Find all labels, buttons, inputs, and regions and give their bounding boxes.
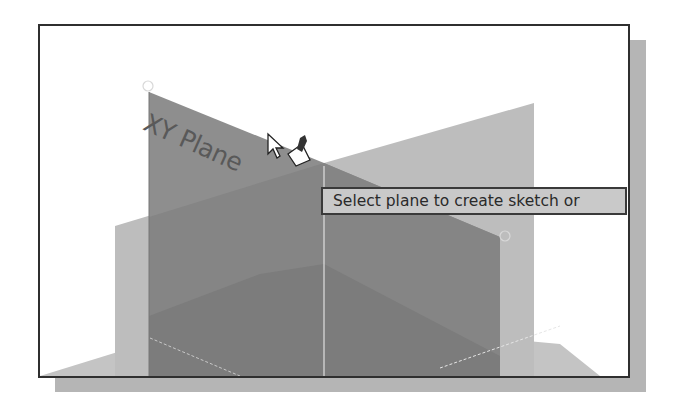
plane-corner-handle[interactable] — [143, 81, 153, 91]
tooltip: Select plane to create sketch or — [321, 187, 627, 215]
graphics-viewport[interactable]: XY Plane Select plane to create sketch o… — [38, 24, 630, 378]
select-plane-cursor-icon — [266, 132, 316, 174]
